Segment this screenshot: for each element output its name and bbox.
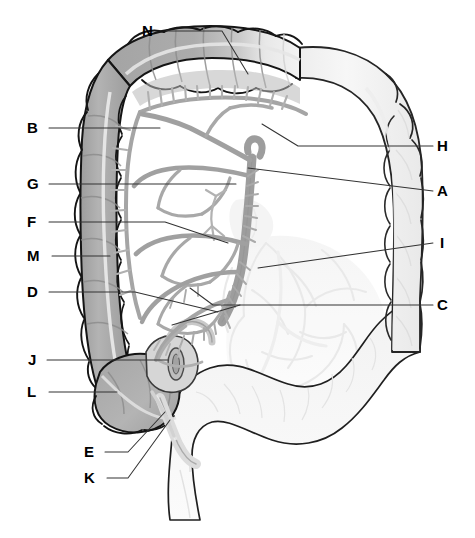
- label-k[interactable]: K: [84, 470, 95, 485]
- anatomy-figure: NBHGAFMIDCJLEK: [0, 0, 475, 538]
- colon-illustration: [0, 0, 475, 538]
- label-n[interactable]: N: [142, 23, 153, 38]
- label-e[interactable]: E: [84, 444, 94, 459]
- label-f[interactable]: F: [27, 214, 36, 229]
- label-m[interactable]: M: [27, 248, 40, 263]
- label-a[interactable]: A: [437, 183, 448, 198]
- label-c[interactable]: C: [437, 297, 448, 312]
- label-g[interactable]: G: [27, 176, 39, 191]
- label-l[interactable]: L: [27, 384, 36, 399]
- label-h[interactable]: H: [437, 138, 448, 153]
- label-d[interactable]: D: [27, 284, 38, 299]
- label-i[interactable]: I: [440, 235, 444, 250]
- label-b[interactable]: B: [27, 120, 38, 135]
- label-j[interactable]: J: [28, 352, 36, 367]
